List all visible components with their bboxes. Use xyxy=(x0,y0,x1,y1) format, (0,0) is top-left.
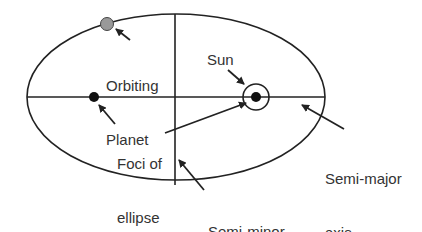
semi-minor-arrow xyxy=(179,160,204,190)
foci-label-line1: Foci of xyxy=(117,155,162,173)
orbiting-label-line1: Orbiting xyxy=(106,77,159,95)
foci-label: Foci of ellipse xyxy=(117,119,162,232)
sun-dot xyxy=(251,92,261,102)
planet-arrow xyxy=(116,29,130,40)
semi-minor-label: Semi-minor axis xyxy=(208,187,285,232)
sun-label: Sun xyxy=(207,51,234,69)
semi-major-line2: axis xyxy=(325,224,402,232)
foci-label-line2: ellipse xyxy=(117,209,162,227)
sun-arrow xyxy=(228,70,244,84)
planet-icon xyxy=(101,18,114,31)
focus-left-dot xyxy=(89,92,99,102)
semi-major-line1: Semi-major xyxy=(325,170,402,188)
semi-major-label: Semi-major axis xyxy=(325,134,402,232)
focus-right-arrow xyxy=(165,103,246,133)
semi-minor-line1: Semi-minor xyxy=(208,223,285,232)
